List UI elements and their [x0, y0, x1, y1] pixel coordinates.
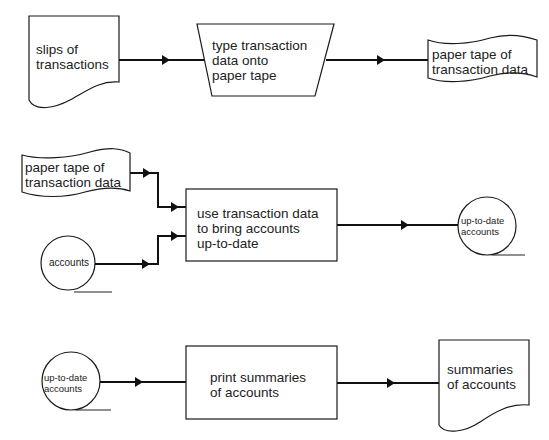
label-type-transaction: type transaction data onto paper tape	[212, 38, 324, 83]
arrowhead-icon	[142, 259, 150, 269]
arrowhead-icon	[171, 202, 179, 212]
arrowhead-icon	[162, 55, 170, 65]
label-line: of accounts	[447, 377, 516, 392]
label-paper-tape-input: paper tape of transaction data	[25, 160, 121, 190]
arrowhead-icon	[401, 220, 409, 230]
label-line: paper tape of	[432, 47, 528, 62]
label-line: print summaries	[210, 370, 306, 385]
label-summaries-of-accounts: summaries of accounts	[447, 362, 516, 392]
label-paper-tape-output: paper tape of transaction data	[432, 47, 528, 77]
label-line: slips of	[36, 42, 109, 57]
label-line: paper tape	[212, 68, 324, 83]
label-slips-of-transactions: slips of transactions	[36, 42, 109, 72]
label-up-to-date-accounts-output: up-to-date accounts	[461, 216, 504, 238]
arrowhead-icon	[171, 231, 179, 241]
label-line: of accounts	[210, 385, 306, 400]
label-accounts: accounts	[49, 257, 89, 268]
label-line: accounts	[461, 227, 504, 238]
connector-tape-to-process	[130, 173, 186, 207]
label-line: transaction data	[25, 175, 121, 190]
label-line: type transaction	[212, 38, 324, 53]
connector-accounts-to-process	[95, 236, 186, 264]
label-up-to-date-accounts-input: up-to-date accounts	[44, 373, 87, 395]
label-print-summaries: print summaries of accounts	[210, 370, 306, 400]
label-line: transactions	[36, 57, 109, 72]
arrowhead-icon	[387, 378, 395, 388]
label-line: paper tape of	[25, 160, 121, 175]
label-line: to bring accounts	[197, 221, 319, 236]
label-line: data onto	[212, 53, 324, 68]
arrowhead-icon	[377, 55, 385, 65]
label-line: transaction data	[432, 62, 528, 77]
label-line: accounts	[49, 257, 89, 268]
label-line: use transaction data	[197, 206, 319, 221]
label-update-process: use transaction data to bring accounts u…	[197, 206, 319, 251]
arrowhead-icon	[143, 168, 151, 178]
arrowhead-icon	[135, 377, 143, 387]
label-line: accounts	[44, 384, 87, 395]
label-line: summaries	[447, 362, 516, 377]
label-line: up-to-date	[197, 236, 319, 251]
